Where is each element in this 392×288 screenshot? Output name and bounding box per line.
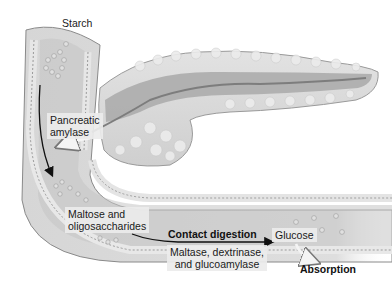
pancreatic-amylase-line-2: amylase [50,126,100,138]
starch-label: Starch [62,17,92,29]
maltose-line-1: Maltose and [68,208,146,220]
diagram-canvas: Starch Pancreatic amylase Maltose and ol… [0,0,392,288]
absorption-label: Absorption [300,263,356,275]
enzymes-line-2: and glucoamylase [170,258,264,270]
pancreatic-amylase-label: Pancreatic amylase [47,113,103,139]
pancreatic-amylase-line-1: Pancreatic [50,114,100,126]
maltose-line-2: oligosaccharides [68,220,146,232]
contact-digestion-label: Contact digestion [168,228,257,240]
pancreas [92,48,378,166]
brush-border-enzymes-label: Maltase, dextrinase, and glucoamylase [167,245,267,271]
maltose-oligosaccharides-label: Maltose and oligosaccharides [65,207,149,233]
glucose-label: Glucose [272,228,317,242]
enzymes-line-1: Maltase, dextrinase, [170,246,264,258]
